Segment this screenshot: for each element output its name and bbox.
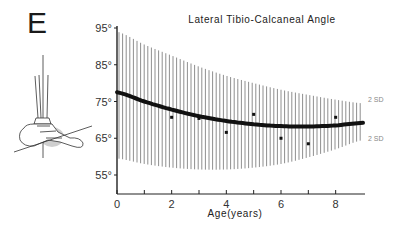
data-point [307, 142, 310, 145]
x-axis-label: Age(years) [208, 208, 263, 219]
sd-upper-label: 2 SD [368, 96, 384, 103]
y-tick-label: 85° [95, 59, 112, 71]
sd-lower-label: 2 SD [368, 135, 384, 142]
x-tick-label: 6 [278, 198, 284, 210]
plot-area: 95°85°75°65°55°02468 [95, 22, 365, 210]
y-tick-label: 55° [95, 169, 112, 181]
data-point [280, 137, 283, 140]
foot-diagram-icon [14, 55, 92, 158]
data-point [252, 113, 255, 116]
y-tick-label: 75° [95, 96, 112, 108]
chart-title: Lateral Tibio-Calcaneal Angle [188, 14, 335, 25]
y-tick-label: 65° [95, 132, 112, 144]
data-point [225, 131, 228, 134]
x-tick-label: 0 [114, 198, 120, 210]
x-tick-label: 8 [333, 198, 339, 210]
mean-curve [117, 92, 363, 126]
chart: 95°85°75°65°55°02468 Lateral Tibio-Calca… [0, 0, 397, 236]
data-point [334, 116, 337, 119]
data-point [198, 117, 201, 120]
y-tick-label: 95° [95, 22, 112, 34]
data-point [143, 100, 146, 103]
x-tick-label: 2 [169, 198, 175, 210]
data-point [170, 116, 173, 119]
